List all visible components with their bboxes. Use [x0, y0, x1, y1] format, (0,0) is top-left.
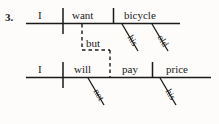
diagram-lines: [0, 0, 219, 124]
word-clause2-object: price: [166, 64, 188, 75]
word-clause2-subject: I: [38, 64, 42, 75]
word-clause1-subject: I: [38, 10, 42, 21]
word-clause2-verb-part1: will: [74, 64, 91, 75]
word-clause1-verb: want: [72, 10, 93, 21]
word-conjunction-but: but: [86, 38, 100, 49]
sentence-diagram-exercise: 3. I want bicycle his old but I will pay…: [0, 0, 219, 124]
word-clause1-object: bicycle: [124, 10, 156, 21]
word-clause2-verb-part2: pay: [122, 64, 138, 75]
